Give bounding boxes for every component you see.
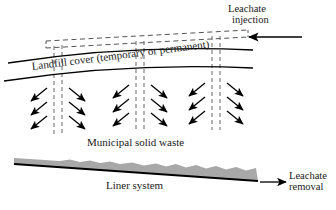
leachate-injection-label-line2: injection	[228, 14, 269, 25]
percolation-arrows-group-1	[31, 88, 85, 129]
injection-well-group-3	[212, 36, 220, 130]
leachate-removal-label: Leachate removal	[289, 170, 327, 192]
leachate-injection-label: Leachate injection	[228, 3, 269, 25]
liner-system-label: Liner system	[106, 180, 163, 191]
leachate-removal-label-line2: removal	[289, 181, 327, 192]
landfill-diagram: Leachate injection Landfill cover (tempo…	[0, 0, 336, 210]
leachate-removal-label-line1: Leachate	[289, 170, 327, 181]
percolation-arrows-group-2	[113, 85, 167, 126]
landfill-schematic-svg	[0, 0, 336, 210]
percolation-arrows-group-3	[189, 83, 243, 124]
leachate-injection-label-line1: Leachate	[228, 3, 266, 14]
liner-system-wedge	[14, 158, 258, 181]
municipal-solid-waste-label: Municipal solid waste	[87, 137, 184, 148]
